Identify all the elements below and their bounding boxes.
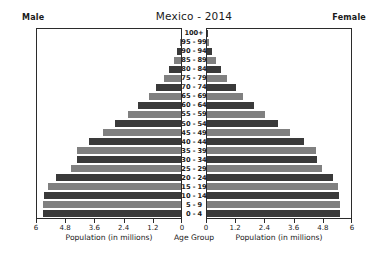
female-bar-75-79 [207,75,227,82]
axis-tick-label: 3.6 [89,224,100,232]
axis-tick-label: 1.2 [147,224,158,232]
axis-tick [124,219,125,223]
axis-tick-label: 6 [350,224,354,232]
female-bar-5-9 [207,201,340,208]
male-bar-25-29 [71,165,181,172]
age-group-label: 80 - 84 [182,64,206,73]
age-group-label: 35 - 39 [182,146,206,155]
bar-row [207,110,351,119]
bar-row [37,137,181,146]
male-bar-20-24 [56,174,181,181]
axis-tick [206,219,207,223]
female-bar-95-99 [207,39,209,46]
bar-row [37,29,181,38]
bar-row [207,119,351,128]
bar-row [37,92,181,101]
bar-row [37,191,181,200]
axis-tick-label: 4.8 [317,224,328,232]
bar-row [207,191,351,200]
male-bar-35-39 [77,147,181,154]
bar-row [207,146,351,155]
female-side-label: Female [332,13,366,22]
female-bar-rows [207,29,351,218]
female-bar-40-44 [207,138,304,145]
chart-title: Mexico - 2014 [0,10,388,22]
population-pyramid-figure: Male Mexico - 2014 Female 0 - 45 - 910 -… [0,0,388,272]
age-group-label: 0 - 4 [182,210,206,219]
bar-row [37,38,181,47]
female-bar-35-39 [207,147,316,154]
bar-row [37,200,181,209]
bar-row [207,74,351,83]
female-bar-10-14 [207,192,339,199]
bar-row [207,47,351,56]
chart-header: Male Mexico - 2014 Female [0,0,388,28]
female-bar-45-49 [207,129,290,136]
bar-row [207,29,351,38]
male-bar-rows [37,29,181,218]
female-bar-55-59 [207,111,265,118]
male-bar-5-9 [43,201,181,208]
female-bar-50-54 [207,120,278,127]
axis-tick [36,219,37,223]
bar-row [207,200,351,209]
bar-row [37,74,181,83]
age-group-label: 10 - 14 [182,192,206,201]
bar-row [37,209,181,218]
axis-tick [65,219,66,223]
male-plot-panel [36,28,182,219]
male-bar-80-84 [169,66,181,73]
age-group-label: 50 - 54 [182,119,206,128]
bar-row [207,101,351,110]
axis-tick [94,219,95,223]
bar-row [37,47,181,56]
bar-row [207,38,351,47]
age-group-label: 45 - 49 [182,128,206,137]
bar-row [207,182,351,191]
male-bar-75-79 [164,75,181,82]
bar-row [37,119,181,128]
age-group-label: 30 - 34 [182,155,206,164]
bar-row [37,110,181,119]
age-group-label: 5 - 9 [182,201,206,210]
male-bar-0-4 [43,210,181,217]
male-bar-45-49 [103,129,181,136]
age-group-label: 100+ [182,28,206,37]
axis-tick-label: 2.4 [118,224,129,232]
female-bar-20-24 [207,174,333,181]
bar-row [207,137,351,146]
male-bar-30-34 [77,156,181,163]
female-bar-30-34 [207,156,317,163]
male-bar-55-59 [128,111,181,118]
axis-tick [235,219,236,223]
age-group-label: 55 - 59 [182,110,206,119]
bar-row [37,83,181,92]
axis-tick [351,219,352,223]
female-bar-70-74 [207,84,236,91]
bar-row [207,56,351,65]
male-bar-65-69 [149,93,181,100]
female-bar-65-69 [207,93,243,100]
axis-tick [181,219,182,223]
axis-tick [323,219,324,223]
bar-row [37,155,181,164]
bar-row [207,173,351,182]
bar-row [207,164,351,173]
age-group-label: 90 - 94 [182,46,206,55]
female-bar-90-94 [207,48,212,55]
bar-row [37,128,181,137]
bar-row [207,83,351,92]
age-group-label-column: 0 - 45 - 910 - 1415 - 1920 - 2425 - 2930… [182,28,206,219]
bar-row [37,101,181,110]
female-bar-100+ [207,30,208,37]
male-bar-40-44 [89,138,181,145]
male-bar-70-74 [156,84,181,91]
bar-row [37,56,181,65]
female-bar-85-89 [207,57,216,64]
bar-row [207,92,351,101]
female-bar-60-64 [207,102,254,109]
male-bar-10-14 [44,192,181,199]
axis-tick-label: 6 [34,224,38,232]
axis-tick-label: 0 [180,224,184,232]
bar-row [207,155,351,164]
